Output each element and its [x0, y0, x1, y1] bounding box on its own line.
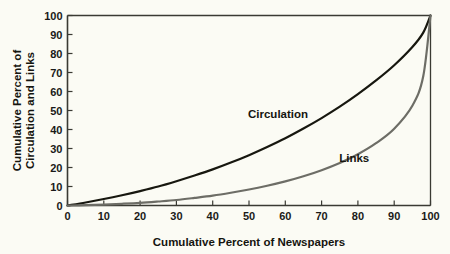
x-tick-label-90: 90	[388, 210, 400, 222]
y-axis-title: Cumulative Percent ofCirculation and Lin…	[11, 50, 36, 172]
y-tick-label-0: 0	[56, 200, 62, 212]
x-tick-label-0: 0	[64, 210, 70, 222]
y-tick-label-30: 30	[50, 143, 62, 155]
y-tick-label-90: 90	[50, 29, 62, 41]
y-axis-title-line-2: Circulation and Links	[24, 52, 36, 169]
x-tick-label-20: 20	[134, 210, 146, 222]
series-label-circulation: Circulation	[248, 108, 308, 120]
y-tick-label-50: 50	[50, 105, 62, 117]
y-tick-label-80: 80	[50, 48, 62, 60]
x-tick-label-80: 80	[352, 210, 364, 222]
y-tick-label-60: 60	[50, 86, 62, 98]
x-tick-label-50: 50	[243, 210, 255, 222]
x-axis-title: Cumulative Percent of Newspapers	[153, 236, 345, 248]
y-tick-label-70: 70	[50, 67, 62, 79]
y-tick-label-20: 20	[50, 162, 62, 174]
x-tick-label-100: 100	[421, 210, 439, 222]
y-tick-label-40: 40	[50, 124, 62, 136]
x-tick-label-60: 60	[279, 210, 291, 222]
x-tick-label-70: 70	[315, 210, 327, 222]
x-tick-label-10: 10	[98, 210, 110, 222]
lorenz-curve-chart: 0102030405060708090100 01020304050607080…	[0, 0, 450, 254]
x-tick-label-40: 40	[207, 210, 219, 222]
chart-canvas: 0102030405060708090100 01020304050607080…	[0, 0, 450, 254]
series-label-links: Links	[339, 152, 369, 164]
y-axis-title-line-1: Cumulative Percent of	[11, 50, 23, 172]
y-tick-label-10: 10	[50, 181, 62, 193]
y-tick-label-100: 100	[44, 10, 62, 22]
x-tick-label-30: 30	[170, 210, 182, 222]
